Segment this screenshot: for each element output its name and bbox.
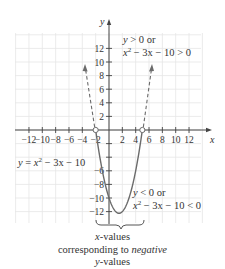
y-axis-arrow-icon [107,19,111,25]
caption-line2: corresponding to negative [0,244,225,257]
x-tick-label: 4 [133,135,138,145]
upper-note-line1: y > 0 or [122,34,156,45]
y-tick-label: −10 [89,194,104,204]
x-tick-label: −2 [91,135,101,145]
open-circle-root [140,127,145,132]
y-tick-label: 6 [99,85,104,95]
x-tick-label: −6 [64,135,74,145]
x-tick-label: 12 [184,135,194,145]
x-tick-label: 6 [147,135,152,145]
upper-note-rest: > 0 or [128,34,156,45]
lower-note-line1: y < 0 or [132,187,166,198]
y-tick-label: 8 [99,71,104,81]
y-tick-label: 12 [95,44,105,54]
x-tick-label: 8 [160,135,165,145]
x-tick-label: 10 [171,135,181,145]
upper-note-line2: x2 − 3x − 10 > 0 [122,46,191,58]
y-axis-label: y [99,16,105,27]
x-tick-label: −4 [77,135,87,145]
caption-line3: y-values [0,256,225,269]
dashed-curve-left [86,69,95,127]
y-tick-label: 10 [95,58,105,68]
x-axis-arrow-icon [206,128,212,132]
left-arrowhead-icon [83,64,88,71]
y-tick-label: 4 [99,98,104,108]
y-tick-label: −12 [89,207,104,217]
open-circle-root [93,127,98,132]
right-arrowhead-icon [149,64,154,71]
brace [96,220,144,229]
dashed-curve-right [143,69,151,127]
y-tick-label: 2 [99,112,104,122]
y-tick-label: −8 [94,180,104,190]
x-axis-label: x [209,134,215,145]
lower-note-line2: x2 − 3x − 10 < 0 [132,199,201,211]
equation-label: y = x2 − 3x − 10 [17,156,85,168]
x-tick-label: 2 [120,135,125,145]
x-tick-label: −10 [35,135,50,145]
x-tick-label: −8 [51,135,61,145]
caption-line1: x-values [0,231,225,244]
